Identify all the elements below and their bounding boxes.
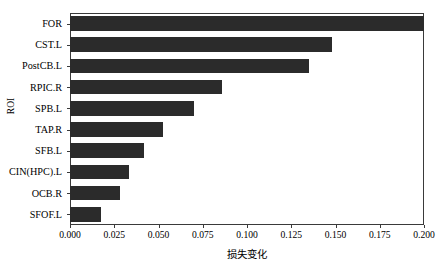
bar [70,16,424,31]
x-axis-tick-label: 0.150 [325,229,347,240]
x-axis-tick-label: 0.200 [413,229,435,240]
y-axis-tick-label: TAP.R [35,119,62,140]
x-axis-tick-label: 0.050 [148,229,170,240]
x-axis-ticks: 0.0000.0250.0500.0750.1000.1250.1500.175… [70,225,424,247]
bar-row [70,98,424,119]
bar-row [70,204,424,225]
y-axis-tick-label: SPB.L [35,98,62,119]
bar-row [70,119,424,140]
y-axis-tick-mark [67,108,70,109]
y-axis-tick-mark [67,87,70,88]
x-axis-tick-mark [424,225,425,228]
x-axis-tick-mark [336,225,337,228]
bar [70,37,332,52]
y-axis-tick-mark [67,24,70,25]
bar [70,122,163,137]
bar-row [70,34,424,55]
x-axis-tick-label: 0.000 [59,229,81,240]
y-axis-title: ROI [5,98,16,115]
y-axis-tick-label: OCB.R [32,183,62,204]
x-axis-tick-mark [380,225,381,228]
y-axis-tick-label: SFOF.L [30,204,62,225]
bar [70,186,120,201]
bar-chart: FORCST.LPostCB.LRPIC.RSPB.LTAP.RSFB.LCIN… [0,0,448,267]
y-axis-tick-label: CST.L [35,34,62,55]
x-axis-tick-label: 0.075 [192,229,214,240]
x-axis-tick-label: 0.025 [103,229,125,240]
y-axis-tick-label: CIN(HPC).L [9,161,62,182]
y-axis-tick-mark [67,151,70,152]
x-axis-tick-mark [247,225,248,228]
x-axis-title: 损失变化 [70,246,424,261]
y-axis-tick-label: RPIC.R [30,77,62,98]
x-axis-tick-mark [159,225,160,228]
bar-row [70,140,424,161]
y-axis-tick-label: SFB.L [35,140,62,161]
x-axis-tick-mark [70,225,71,228]
x-axis-tick-mark [291,225,292,228]
y-axis-tick-mark [67,193,70,194]
x-axis-tick-label: 0.100 [236,229,258,240]
y-axis-tick-label: PostCB.L [22,55,62,76]
bar [70,80,222,95]
x-axis-tick-label: 0.125 [280,229,302,240]
bars-layer [70,13,424,225]
x-axis-tick-mark [114,225,115,228]
y-axis-tick-mark [67,130,70,131]
bar-row [70,183,424,204]
y-axis-tick-mark [67,66,70,67]
bar [70,101,194,116]
y-axis-labels: FORCST.LPostCB.LRPIC.RSPB.LTAP.RSFB.LCIN… [0,13,67,225]
x-axis-tick-mark [203,225,204,228]
bar-row [70,13,424,34]
y-axis-tick-label: FOR [42,13,62,34]
x-axis-tick-label: 0.175 [369,229,391,240]
bar [70,165,129,180]
bar-row [70,161,424,182]
bar-row [70,55,424,76]
bar [70,59,309,74]
y-axis-tick-mark [67,214,70,215]
y-axis-tick-mark [67,172,70,173]
bar [70,143,144,158]
bar-row [70,77,424,98]
y-axis-tick-mark [67,45,70,46]
bar [70,207,101,222]
